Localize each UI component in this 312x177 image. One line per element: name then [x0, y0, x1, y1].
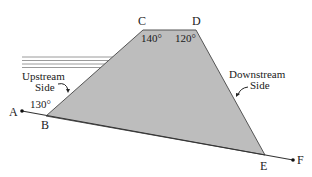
point-f-dot [291, 158, 295, 162]
angle-b: 130° [30, 98, 51, 110]
angle-c: 140° [141, 32, 162, 44]
downstream-pointer [238, 87, 248, 95]
upstream-label-line2: Side [35, 81, 55, 93]
dam-body [46, 30, 265, 155]
point-a-dot [20, 109, 24, 113]
label-a: A [9, 105, 18, 119]
label-f: F [297, 153, 304, 167]
label-e: E [260, 159, 267, 173]
angle-d: 120° [175, 32, 196, 44]
dam-diagram: C D A B E F 140° 120° 130° Upstream Side… [0, 0, 312, 177]
label-b: B [41, 118, 49, 132]
downstream-label-line2: Side [250, 79, 270, 91]
downstream-arrow-icon [236, 93, 240, 97]
label-c: C [138, 14, 146, 28]
label-d: D [192, 14, 201, 28]
upstream-arrow-icon [66, 89, 70, 93]
